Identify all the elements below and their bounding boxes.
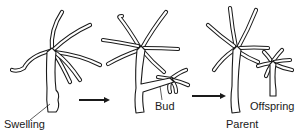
diagram-drawing: [0, 0, 306, 138]
label-offspring: Offspring: [250, 100, 294, 112]
body-parent: [231, 46, 241, 113]
arrow-2: [192, 93, 226, 99]
pointer-bud: [160, 86, 162, 100]
hydra-offspring: [258, 50, 292, 96]
hydra-budding-diagram: Swelling Bud Parent Offspring: [0, 0, 306, 138]
hydra-parent: [208, 8, 268, 113]
hydra-stage-1: [12, 12, 100, 120]
arrow-1: [79, 97, 110, 103]
tentacles-stage-1: [12, 12, 100, 82]
label-swelling: Swelling: [4, 118, 45, 130]
label-bud: Bud: [155, 100, 175, 112]
hydra-stage-2: [103, 12, 188, 113]
body-offspring: [270, 61, 276, 96]
label-parent: Parent: [226, 118, 258, 130]
